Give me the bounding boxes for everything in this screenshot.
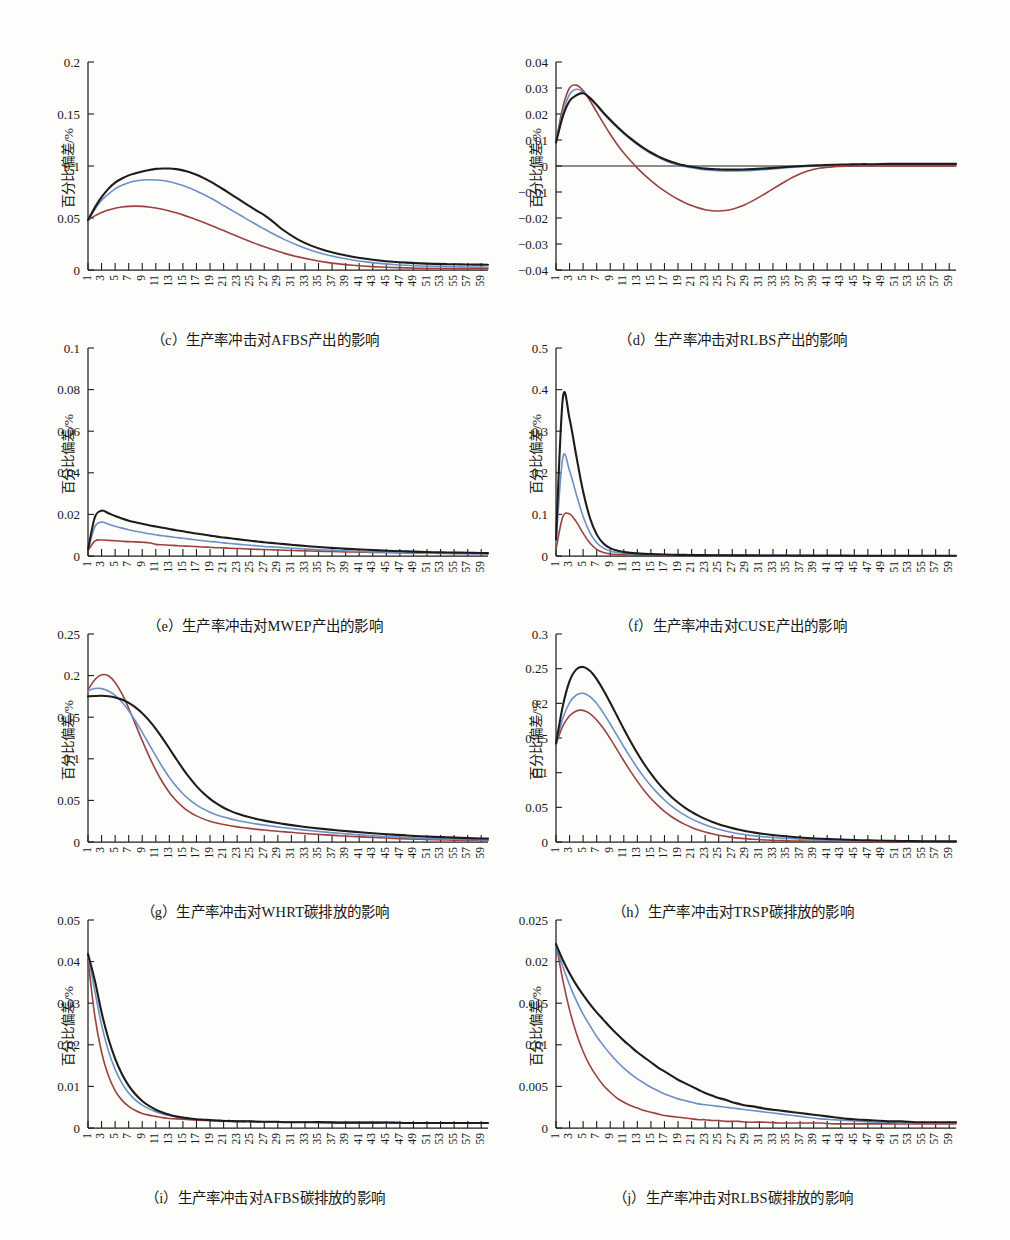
svg-text:7: 7 [121, 1133, 133, 1139]
svg-text:43: 43 [365, 275, 377, 287]
svg-text:11: 11 [148, 275, 160, 286]
svg-text:11: 11 [148, 847, 160, 858]
svg-text:41: 41 [820, 275, 832, 287]
svg-text:51: 51 [888, 1133, 900, 1145]
svg-text:49: 49 [874, 561, 886, 573]
svg-text:39: 39 [806, 847, 818, 859]
svg-text:43: 43 [833, 847, 845, 859]
svg-text:25: 25 [711, 1133, 723, 1145]
svg-text:31: 31 [284, 847, 296, 859]
svg-text:55: 55 [915, 561, 927, 573]
svg-text:13: 13 [630, 847, 642, 859]
svg-text:7: 7 [121, 847, 133, 853]
svg-text:57: 57 [928, 847, 940, 859]
panel-g: 00.050.10.150.20.25135791113151719212325… [36, 626, 494, 920]
svg-text:53: 53 [901, 561, 913, 573]
svg-text:43: 43 [833, 275, 845, 287]
svg-text:19: 19 [671, 275, 683, 287]
svg-text:49: 49 [874, 275, 886, 287]
svg-text:41: 41 [820, 847, 832, 859]
svg-text:0.05: 0.05 [525, 800, 548, 815]
svg-text:15: 15 [644, 275, 656, 287]
series-line-blue [88, 522, 488, 554]
svg-text:39: 39 [338, 1133, 350, 1145]
svg-text:33: 33 [298, 561, 310, 573]
svg-text:23: 23 [230, 561, 242, 573]
series-line-black [88, 511, 488, 554]
svg-text:47: 47 [393, 275, 405, 287]
svg-text:11: 11 [616, 561, 628, 572]
svg-text:17: 17 [189, 1133, 201, 1145]
svg-text:35: 35 [779, 275, 791, 287]
svg-text:35: 35 [311, 561, 323, 573]
panel-caption: （i）生产率冲击对AFBS碳排放的影响 [36, 1186, 494, 1207]
series-line-red [556, 710, 956, 842]
svg-text:11: 11 [148, 1133, 160, 1144]
svg-text:15: 15 [176, 1133, 188, 1145]
series-line-blue [556, 454, 956, 556]
svg-text:1: 1 [549, 561, 561, 567]
svg-text:45: 45 [379, 275, 391, 287]
svg-text:19: 19 [203, 847, 215, 859]
svg-text:0.025: 0.025 [519, 913, 548, 928]
svg-text:29: 29 [738, 275, 750, 287]
svg-text:43: 43 [365, 561, 377, 573]
svg-text:11: 11 [616, 847, 628, 858]
svg-text:37: 37 [793, 847, 805, 859]
svg-text:37: 37 [325, 1133, 337, 1145]
svg-text:27: 27 [257, 275, 269, 287]
svg-text:37: 37 [793, 1133, 805, 1145]
svg-text:−0.03: −0.03 [518, 237, 548, 252]
svg-text:49: 49 [874, 847, 886, 859]
svg-text:57: 57 [928, 1133, 940, 1145]
y-axis-label: 百分比偏差/% [57, 685, 77, 795]
svg-text:27: 27 [257, 847, 269, 859]
svg-text:51: 51 [420, 1133, 432, 1145]
svg-text:15: 15 [176, 275, 188, 287]
svg-text:25: 25 [711, 847, 723, 859]
y-axis-label: 百分比偏差/% [525, 685, 545, 795]
svg-text:3: 3 [94, 561, 106, 567]
svg-text:23: 23 [698, 847, 710, 859]
svg-text:0.4: 0.4 [532, 382, 549, 397]
svg-text:57: 57 [460, 275, 472, 287]
svg-text:13: 13 [162, 847, 174, 859]
svg-text:45: 45 [847, 275, 859, 287]
svg-text:0.005: 0.005 [519, 1079, 548, 1094]
svg-text:53: 53 [901, 275, 913, 287]
svg-text:39: 39 [338, 275, 350, 287]
svg-text:19: 19 [203, 561, 215, 573]
svg-text:55: 55 [915, 1133, 927, 1145]
svg-text:49: 49 [406, 561, 418, 573]
svg-text:47: 47 [861, 275, 873, 287]
svg-text:39: 39 [806, 1133, 818, 1145]
svg-text:0.05: 0.05 [57, 913, 80, 928]
svg-text:39: 39 [806, 275, 818, 287]
svg-text:3: 3 [94, 1133, 106, 1139]
svg-text:41: 41 [820, 561, 832, 573]
svg-text:23: 23 [230, 847, 242, 859]
svg-text:55: 55 [915, 847, 927, 859]
svg-text:0.03: 0.03 [525, 81, 548, 96]
svg-text:23: 23 [230, 1133, 242, 1145]
panel-h: 00.050.10.150.20.250.3135791113151719212… [504, 626, 962, 920]
svg-text:0: 0 [542, 549, 549, 564]
svg-text:43: 43 [833, 1133, 845, 1145]
series-line-red [88, 206, 488, 269]
svg-text:53: 53 [433, 275, 445, 287]
svg-text:57: 57 [460, 847, 472, 859]
svg-text:49: 49 [406, 847, 418, 859]
svg-text:31: 31 [752, 847, 764, 859]
svg-text:35: 35 [779, 847, 791, 859]
svg-text:19: 19 [203, 1133, 215, 1145]
svg-text:9: 9 [603, 561, 615, 567]
svg-text:5: 5 [108, 847, 120, 853]
svg-text:29: 29 [270, 847, 282, 859]
svg-text:41: 41 [352, 847, 364, 859]
panel-e: 00.020.040.060.080.113579111315171921232… [36, 340, 494, 634]
svg-text:5: 5 [576, 1133, 588, 1139]
svg-text:35: 35 [311, 275, 323, 287]
svg-text:5: 5 [108, 1133, 120, 1139]
svg-text:15: 15 [176, 561, 188, 573]
svg-text:23: 23 [698, 561, 710, 573]
